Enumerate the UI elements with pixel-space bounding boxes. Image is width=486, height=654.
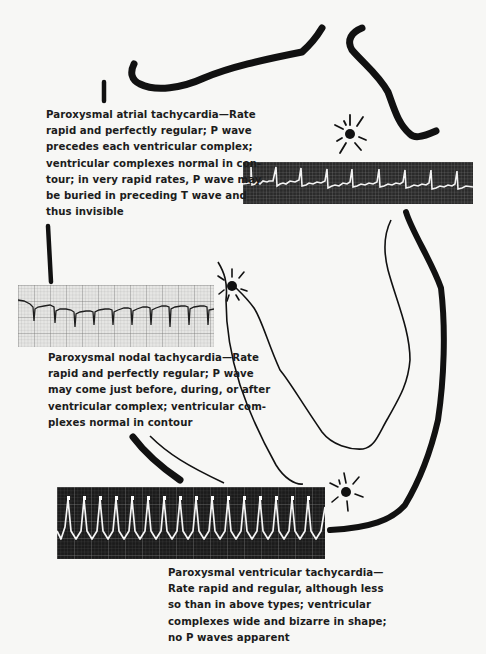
caption-line: Paroxysmal ventricular tachycardia— <box>168 565 378 581</box>
caption-line: rapid and perfectly regular; P wave <box>48 366 230 382</box>
heart-wall-stub-left <box>48 226 51 282</box>
ecg-strip-ventricular <box>57 487 325 559</box>
caption-line: tour; in very rapid rates, P wave may <box>46 172 232 188</box>
heart-lower-wall-thin <box>150 436 224 483</box>
caption-line: so than in above types; ventricular <box>168 597 378 613</box>
heart-inner-chamber <box>234 220 410 449</box>
ecg-strip-nodal <box>18 285 214 347</box>
caption-line: thus invisible <box>46 204 232 220</box>
caption-line: complexes wide and bizarre in shape; <box>168 614 378 630</box>
heart-outer-ventricular-wall <box>330 212 444 530</box>
caption-line: ventricular complex; ventricular com- <box>48 399 230 415</box>
ecg-strip-atrial <box>243 162 473 204</box>
caption-line: no P waves apparent <box>168 630 378 646</box>
sunburst-nodal-icon <box>218 269 247 301</box>
caption-line: Paroxysmal nodal tachycardia—Rate <box>48 350 230 366</box>
caption-line: Paroxysmal atrial tachycardia—Rate <box>46 107 232 123</box>
caption-line: ventricular complexes normal in con- <box>46 156 232 172</box>
sunburst-ventricular-icon <box>330 473 363 511</box>
caption-line: Rate rapid and regular, although less <box>168 581 378 597</box>
caption-line: may come just before, during, or after <box>48 382 230 398</box>
caption-atrial-tachycardia: Paroxysmal atrial tachycardia—Rate rapid… <box>46 107 232 220</box>
caption-line: precedes each ventricular complex; <box>46 139 232 155</box>
caption-ventricular-tachycardia: Paroxysmal ventricular tachycardia— Rate… <box>168 565 378 646</box>
heart-lower-wall-thick <box>133 437 180 480</box>
heart-atrial-wall-left <box>132 28 322 88</box>
heart-atrial-wall-right <box>350 28 436 137</box>
caption-line: rapid and perfectly regular; P wave <box>46 123 232 139</box>
caption-line: be buried in preceding T wave and <box>46 188 232 204</box>
caption-line: plexes normal in contour <box>48 415 230 431</box>
sunburst-atrial-icon <box>335 115 366 153</box>
caption-nodal-tachycardia: Paroxysmal nodal tachycardia—Rate rapid … <box>48 350 230 431</box>
